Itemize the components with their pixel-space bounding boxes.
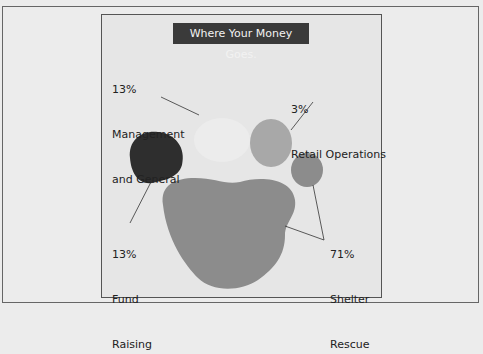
management-pct: 13% xyxy=(112,82,184,97)
fund-name-1: Fund xyxy=(112,292,152,307)
label-management: 13% Management and General xyxy=(112,52,184,202)
fund-name-2: Raising xyxy=(112,337,152,352)
shelter-name-2: Rescue xyxy=(330,337,369,352)
pad-retail xyxy=(250,119,292,167)
pad-management xyxy=(194,118,250,162)
management-name-2: and General xyxy=(112,172,184,187)
label-shelter: 71% Shelter Rescue xyxy=(330,217,369,354)
retail-name: Retail Operations xyxy=(291,147,386,162)
label-fund-raising: 13% Fund Raising xyxy=(112,217,152,354)
fund-pct: 13% xyxy=(112,247,152,262)
retail-pct: 3% xyxy=(291,102,386,117)
shelter-name-1: Shelter xyxy=(330,292,369,307)
chart-title: Where Your Money Goes. xyxy=(173,23,309,44)
shelter-pct: 71% xyxy=(330,247,369,262)
management-name-1: Management xyxy=(112,127,184,142)
label-retail: 3% Retail Operations xyxy=(291,72,386,177)
